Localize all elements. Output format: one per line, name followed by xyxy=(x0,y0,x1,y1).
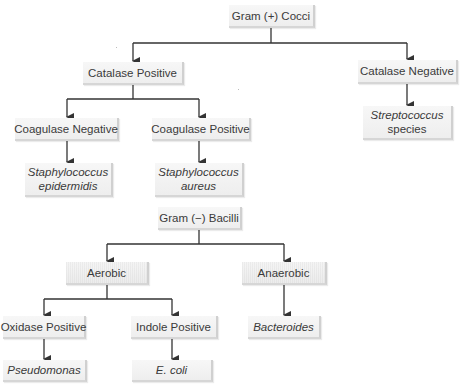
node-gram-negative-bacilli: Gram (−) Bacilli xyxy=(158,207,242,230)
node-coagulase-positive: Coagulase Positive xyxy=(152,118,251,141)
node-label: Gram (+) Cocci xyxy=(232,9,310,23)
node-catalase-negative: Catalase Negative xyxy=(358,60,458,84)
node-aerobic: Aerobic xyxy=(66,262,149,285)
bacteria-identification-diagram: Gram (+) Cocci Catalase Positive Catalas… xyxy=(0,0,466,386)
node-label: Catalase Positive xyxy=(88,66,177,80)
node-coagulase-negative: Coagulase Negative xyxy=(15,118,119,141)
node-label: Bacteroides xyxy=(253,320,314,334)
scan-artifact-dot xyxy=(116,47,117,48)
node-label-line2: epidermidis xyxy=(39,179,98,193)
node-label: Coagulase Negative xyxy=(14,122,118,136)
node-label: Oxidase Positive xyxy=(1,320,87,334)
node-pseudomonas: Pseudomonas xyxy=(3,360,87,382)
node-label-line1: Staphylococcus xyxy=(158,165,239,179)
node-streptococcus-species: Streptococcus species xyxy=(363,106,453,140)
node-indole-positive: Indole Positive xyxy=(131,316,218,339)
node-bacteroides: Bacteroides xyxy=(248,316,321,339)
node-label-line2: aureus xyxy=(181,179,216,193)
node-label: Catalase Negative xyxy=(360,64,454,78)
node-label-line1: Streptococcus xyxy=(371,108,444,122)
node-label: Coagulase Positive xyxy=(151,122,249,136)
node-label: Aerobic xyxy=(87,266,126,280)
node-label: E. coli xyxy=(156,363,187,377)
node-staphylococcus-aureus: Staphylococcus aureus xyxy=(155,163,244,197)
node-staphylococcus-epidermidis: Staphylococcus epidermidis xyxy=(25,163,113,197)
node-label-line2: species xyxy=(388,122,427,136)
node-label-line1: Staphylococcus xyxy=(28,165,109,179)
node-anaerobic: Anaerobic xyxy=(242,262,327,285)
scan-artifact-dot xyxy=(238,89,239,90)
node-e-coli: E. coli xyxy=(132,360,213,382)
node-gram-positive-cocci: Gram (+) Cocci xyxy=(229,5,315,28)
node-catalase-positive: Catalase Positive xyxy=(83,62,184,85)
node-label: Anaerobic xyxy=(258,266,310,280)
node-oxidase-positive: Oxidase Positive xyxy=(3,316,86,339)
node-label: Indole Positive xyxy=(136,320,211,334)
node-label: Gram (−) Bacilli xyxy=(159,211,239,225)
node-label: Pseudomonas xyxy=(7,363,81,377)
